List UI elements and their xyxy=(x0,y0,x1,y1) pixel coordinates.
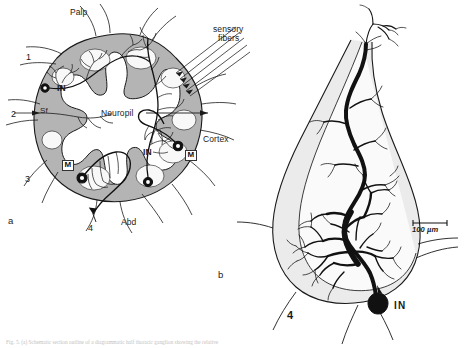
scale-bar-label: 100 µm xyxy=(412,226,438,234)
figure-caption: Fig. 5. (a) Schematic section outline of… xyxy=(6,339,458,348)
apical-tuft xyxy=(366,9,396,44)
neuron-label-in-b: IN xyxy=(394,301,406,312)
panel-label-b: b xyxy=(218,270,223,280)
nerve-root-label-4-b: 4 xyxy=(287,310,293,322)
figure-root: Palp Neuropil Cortex Abd sensory fibers … xyxy=(0,0,464,348)
panel-b-drawing xyxy=(0,0,464,348)
